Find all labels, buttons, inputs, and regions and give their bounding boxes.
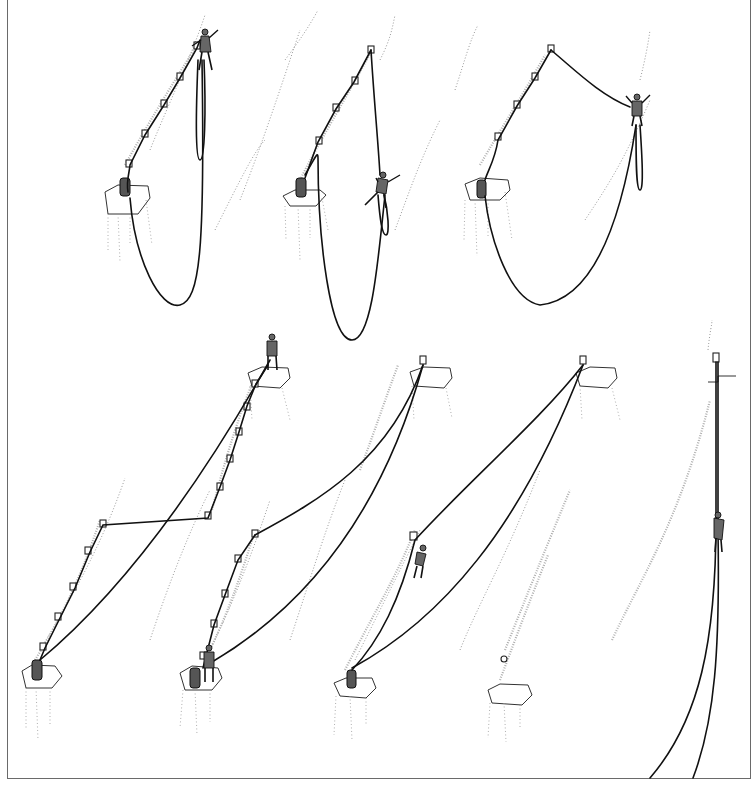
panel-2	[283, 10, 440, 340]
panel-7	[612, 320, 736, 778]
pack-icon	[296, 178, 306, 197]
traversing-climber-figure	[626, 94, 650, 126]
panel-5	[180, 356, 452, 735]
panel-1	[105, 15, 300, 305]
pack-icon	[32, 660, 42, 680]
pendulum-climber-figure	[365, 172, 400, 208]
panel-6	[334, 356, 620, 740]
pack-icon	[347, 670, 356, 688]
panel-3	[455, 25, 650, 305]
panel-4	[22, 334, 290, 740]
panel-6-empty-ledge	[488, 555, 548, 742]
anchor-climber-figure	[267, 334, 277, 370]
climbing-illustration	[0, 0, 756, 797]
ascending-climber-figure	[414, 545, 426, 578]
pack-icon	[190, 668, 200, 688]
